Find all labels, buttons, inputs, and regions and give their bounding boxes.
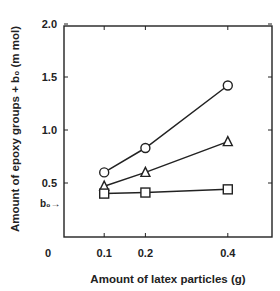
y-tick-label: 2.0 <box>42 18 57 30</box>
square-marker <box>100 189 109 198</box>
x-tick-label: 0 <box>45 247 51 259</box>
triangle-marker <box>223 137 232 146</box>
x-tick-label: 0.2 <box>138 247 153 259</box>
circle-marker <box>223 81 232 90</box>
chart: 0.51.01.52.000.10.20.4 Amount of latex p… <box>0 0 280 291</box>
x-tick-label: 0.4 <box>220 247 236 259</box>
triangle-series-line <box>104 142 228 187</box>
x-axis-title: Amount of latex particles (g) <box>90 273 245 285</box>
circle-marker <box>100 168 109 177</box>
circle-marker <box>141 144 150 153</box>
y-tick-label: 0.5 <box>42 177 57 189</box>
b0-annotation: b₀→ <box>40 198 61 209</box>
y-axis-title: Amount of epoxy groups + b₀ (m mol) <box>9 26 21 232</box>
square-marker <box>223 185 232 194</box>
series-lines <box>104 85 228 193</box>
y-tick-label: 1.0 <box>42 124 57 136</box>
tick-labels: 0.51.01.52.000.10.20.4 <box>42 18 237 259</box>
x-tick-label: 0.1 <box>97 247 112 259</box>
circle-series-line <box>104 85 228 172</box>
y-tick-label: 1.5 <box>42 71 57 83</box>
square-series-line <box>104 189 228 193</box>
square-marker <box>141 188 150 197</box>
